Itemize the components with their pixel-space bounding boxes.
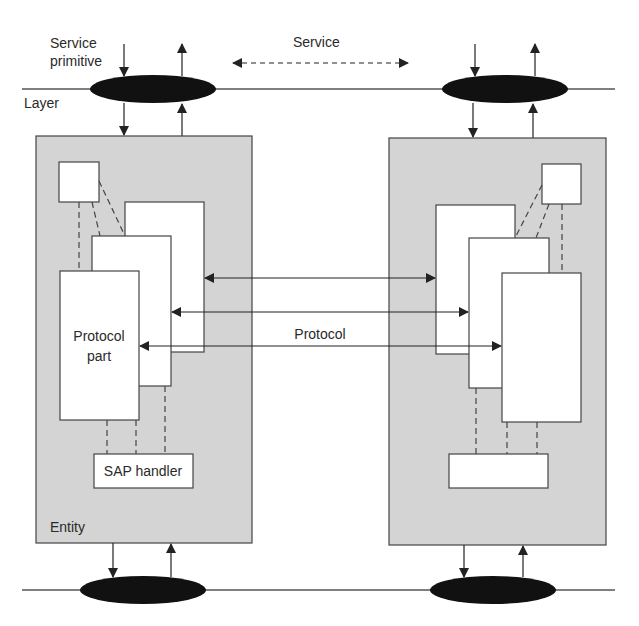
right-sap-handler <box>449 454 548 488</box>
bottom-left-sap-ellipse <box>80 576 206 604</box>
protocol-layer-diagram: Service primitive Service Layer Protocol… <box>0 0 639 626</box>
protocol-part-label-line2: part <box>87 348 111 364</box>
top-right-sap-ellipse <box>442 75 568 103</box>
right-protocol-part-front <box>502 273 581 422</box>
entity-label: Entity <box>50 519 85 535</box>
left-sap-control-box <box>59 162 99 202</box>
right-sap-control-box <box>542 164 581 204</box>
sap-handler-label: SAP handler <box>104 463 183 479</box>
left-protocol-part-front <box>60 271 139 420</box>
service-primitive-label: Service <box>50 35 97 51</box>
protocol-label: Protocol <box>294 326 345 342</box>
bottom-right-sap-ellipse <box>430 576 556 604</box>
top-left-sap-ellipse <box>90 75 216 103</box>
service-label: Service <box>293 34 340 50</box>
protocol-part-label: Protocol <box>73 328 124 344</box>
service-primitive-label-line2: primitive <box>50 53 102 69</box>
layer-label: Layer <box>24 95 59 111</box>
